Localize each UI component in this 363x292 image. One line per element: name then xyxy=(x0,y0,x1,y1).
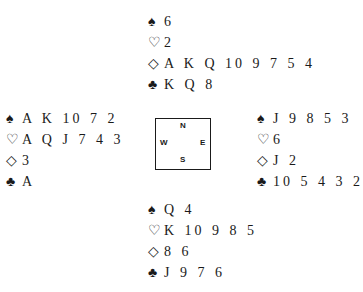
south-hand: ♠Q 4 ♡K 10 9 8 5 ◇8 6 ♣J 9 7 6 xyxy=(148,199,257,283)
west-spades: A K 10 7 2 xyxy=(22,108,117,129)
east-diamonds-row: ◇J 2 xyxy=(257,150,363,171)
east-clubs-row: ♣10 5 4 3 2 xyxy=(257,171,363,192)
diamond-icon: ◇ xyxy=(148,241,164,262)
west-hand: ♠A K 10 7 2 ♡A Q J 7 4 3 ◇3 ♣A xyxy=(6,108,123,192)
west-hearts-row: ♡A Q J 7 4 3 xyxy=(6,129,123,150)
north-clubs-row: ♣K Q 8 xyxy=(148,74,315,95)
north-clubs: K Q 8 xyxy=(164,74,215,95)
south-clubs: J 9 7 6 xyxy=(164,262,225,283)
north-hand: ♠6 ♡2 ◇A K Q 10 9 7 5 4 ♣K Q 8 xyxy=(148,11,315,95)
south-hearts: K 10 9 8 5 xyxy=(164,220,257,241)
east-spades: J 9 8 5 3 xyxy=(273,108,351,129)
club-icon: ♣ xyxy=(257,171,273,192)
west-hearts: A Q J 7 4 3 xyxy=(22,129,123,150)
north-hearts: 2 xyxy=(164,32,174,53)
north-diamonds-row: ◇A K Q 10 9 7 5 4 xyxy=(148,53,315,74)
north-hearts-row: ♡2 xyxy=(148,32,315,53)
east-spades-row: ♠J 9 8 5 3 xyxy=(257,108,363,129)
south-spades-row: ♠Q 4 xyxy=(148,199,257,220)
compass-south: S xyxy=(180,155,185,164)
spade-icon: ♠ xyxy=(6,108,22,129)
compass-box: N W E S xyxy=(155,118,211,170)
west-spades-row: ♠A K 10 7 2 xyxy=(6,108,123,129)
compass-west: W xyxy=(160,138,168,147)
west-clubs: A xyxy=(22,171,35,192)
west-diamonds: 3 xyxy=(22,150,32,171)
north-spades: 6 xyxy=(164,11,174,32)
east-hand: ♠J 9 8 5 3 ♡6 ◇J 2 ♣10 5 4 3 2 xyxy=(257,108,363,192)
spade-icon: ♠ xyxy=(148,199,164,220)
north-spades-row: ♠6 xyxy=(148,11,315,32)
compass-east: E xyxy=(200,138,205,147)
spade-icon: ♠ xyxy=(148,11,164,32)
club-icon: ♣ xyxy=(148,262,164,283)
west-diamonds-row: ◇3 xyxy=(6,150,123,171)
south-diamonds-row: ◇8 6 xyxy=(148,241,257,262)
south-diamonds: 8 6 xyxy=(164,241,192,262)
club-icon: ♣ xyxy=(148,74,164,95)
diamond-icon: ◇ xyxy=(148,53,164,74)
spade-icon: ♠ xyxy=(257,108,273,129)
east-diamonds: J 2 xyxy=(273,150,299,171)
heart-icon: ♡ xyxy=(148,220,164,241)
heart-icon: ♡ xyxy=(148,32,164,53)
south-clubs-row: ♣J 9 7 6 xyxy=(148,262,257,283)
diamond-icon: ◇ xyxy=(257,150,273,171)
heart-icon: ♡ xyxy=(257,129,273,150)
compass-north: N xyxy=(180,121,186,130)
east-hearts-row: ♡6 xyxy=(257,129,363,150)
east-hearts: 6 xyxy=(273,129,283,150)
heart-icon: ♡ xyxy=(6,129,22,150)
east-clubs: 10 5 4 3 2 xyxy=(273,171,363,192)
north-diamonds: A K Q 10 9 7 5 4 xyxy=(164,53,315,74)
south-spades: Q 4 xyxy=(164,199,195,220)
club-icon: ♣ xyxy=(6,171,22,192)
south-hearts-row: ♡K 10 9 8 5 xyxy=(148,220,257,241)
west-clubs-row: ♣A xyxy=(6,171,123,192)
diamond-icon: ◇ xyxy=(6,150,22,171)
